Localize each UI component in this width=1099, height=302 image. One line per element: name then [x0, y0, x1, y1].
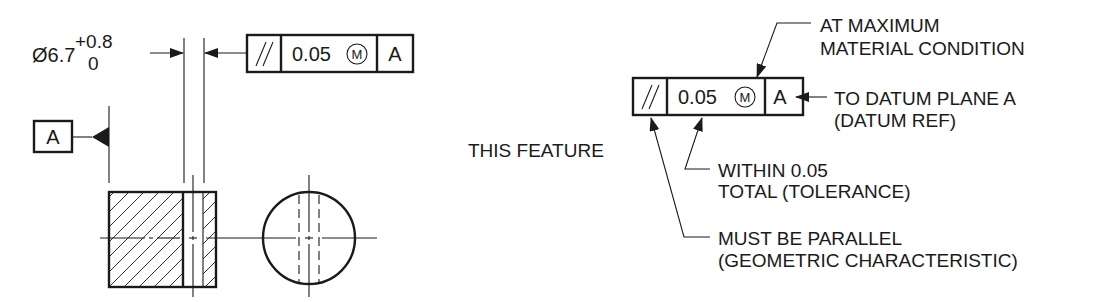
- callout-geometric-line1: MUST BE PARALLEL: [718, 228, 902, 249]
- frame-datum: A: [388, 43, 402, 65]
- section-view: [99, 175, 310, 297]
- callout-datum-line1: TO DATUM PLANE A: [834, 88, 1016, 109]
- datum-feature-label: A: [46, 126, 60, 148]
- gdt-parallelism-diagram: Ø6.7 +0.8 0 0.05 M A A: [0, 0, 1099, 302]
- parallelism-icon: [642, 85, 659, 109]
- dimension-upper-tolerance: +0.8: [75, 31, 113, 52]
- dimension-lower-tolerance: 0: [88, 53, 99, 74]
- feature-control-frame-right: 0.05 M A: [633, 78, 803, 115]
- feature-control-frame-left: 0.05 M A: [247, 35, 413, 72]
- callout-mmc-line1: AT MAXIMUM: [820, 15, 940, 36]
- callout-datum-line2: (DATUM REF): [834, 110, 956, 131]
- callout-this-feature: THIS FEATURE: [468, 140, 604, 161]
- frame-tolerance-value: 0.05: [678, 86, 717, 108]
- datum-feature-symbol: A: [34, 106, 109, 183]
- part-outline: [109, 192, 216, 287]
- leader-geometric: [651, 118, 710, 237]
- callout-tolerance-line1: WITHIN 0.05: [718, 160, 828, 181]
- section-hatching: [99, 182, 274, 297]
- dimension-nominal: Ø6.7: [32, 44, 75, 66]
- parallelism-icon: [256, 42, 273, 66]
- frame-datum: A: [773, 86, 787, 108]
- callout-geometric-line2: (GEOMETRIC CHARACTERISTIC): [718, 250, 1018, 271]
- frame-modifier: M: [352, 47, 363, 62]
- leader-mmc: [757, 23, 811, 77]
- frame-tolerance-value: 0.05: [292, 43, 331, 65]
- left-view: Ø6.7 +0.8 0 0.05 M A A: [32, 31, 413, 297]
- leader-tolerance: [685, 118, 710, 169]
- end-view: [263, 175, 355, 297]
- datum-triangle-icon: [92, 127, 109, 147]
- right-view: 0.05 M A AT MAXIMUM MATERIAL CONDITION T…: [468, 15, 1025, 271]
- frame-modifier: M: [740, 90, 751, 105]
- callout-mmc-line2: MATERIAL CONDITION: [820, 38, 1025, 59]
- diameter-dimension: Ø6.7 +0.8 0: [32, 31, 113, 74]
- callout-tolerance-line2: TOTAL (TOLERANCE): [718, 181, 911, 202]
